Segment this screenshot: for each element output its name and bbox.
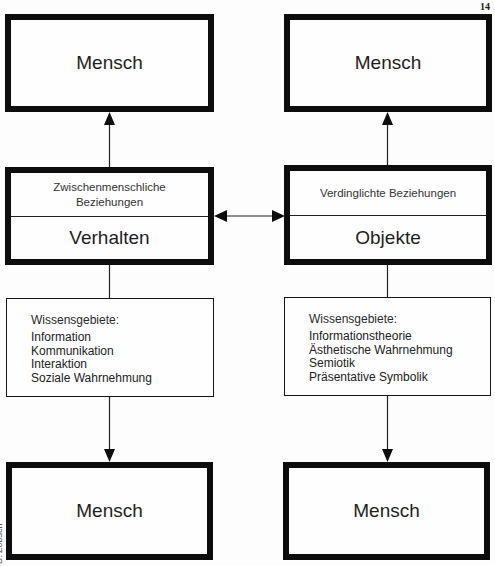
- box-wissensgebiete-left: Wissensgebiete: Information Kommunikatio…: [6, 298, 214, 397]
- arrow-down-icon: [382, 449, 393, 462]
- box-wissensgebiete-right: Wissensgebiete: Informationstheorie Ästh…: [284, 297, 491, 396]
- box-mensch-bottom-right: Mensch: [283, 462, 490, 560]
- arrow-left-icon: [214, 210, 227, 222]
- box-mensch-top-left: Mensch: [5, 14, 214, 112]
- knowledge-item: Kommunikation: [31, 345, 152, 359]
- box-mensch-bottom-left: Mensch: [6, 462, 213, 560]
- knowledge-item: Ästhetische Wahrnehmung: [309, 344, 453, 358]
- knowledge-item: Informationstheorie: [309, 330, 453, 344]
- box-verhalten: Zwischenmenschliche Beziehungen Verhalte…: [5, 167, 214, 265]
- knowledge-item: Soziale Wahrnehmung: [31, 372, 152, 386]
- subtitle-text: Verdinglichte Beziehungen: [320, 186, 456, 201]
- arrow-down-icon: [104, 449, 115, 462]
- knowledge-heading: Wissensgebiete:: [309, 312, 453, 326]
- box-subtitle: Verdinglichte Beziehungen: [290, 171, 486, 216]
- box-label: Mensch: [353, 500, 420, 522]
- image-credit: B. Zobsch: [0, 523, 4, 564]
- box-label: Mensch: [76, 500, 143, 522]
- box-subtitle: Zwischenmenschliche Beziehungen: [11, 173, 208, 217]
- knowledge-item: Präsentative Symbolik: [309, 371, 453, 385]
- knowledge-item: Semiotik: [309, 357, 453, 371]
- knowledge-item: Interaktion: [31, 358, 152, 372]
- arrow-up-icon: [104, 112, 115, 125]
- box-mensch-top-right: Mensch: [284, 14, 492, 112]
- box-label: Mensch: [355, 52, 422, 74]
- page-number: 14: [480, 1, 490, 12]
- box-title: Objekte: [290, 216, 486, 259]
- subtitle-text: Zwischenmenschliche Beziehungen: [45, 180, 175, 210]
- knowledge-heading: Wissensgebiete:: [31, 313, 152, 327]
- knowledge-item: Information: [31, 331, 152, 345]
- arrow-up-icon: [382, 112, 393, 125]
- box-objekte: Verdinglichte Beziehungen Objekte: [284, 165, 492, 265]
- box-label: Mensch: [76, 52, 143, 74]
- box-title: Verhalten: [11, 217, 208, 259]
